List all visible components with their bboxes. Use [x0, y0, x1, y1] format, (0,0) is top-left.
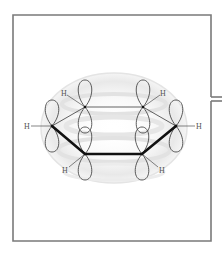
- hydrogen-label-c5: H: [159, 166, 165, 175]
- carbon-c5: [141, 153, 144, 156]
- carbon-c2: [84, 106, 87, 109]
- carbon-c6: [84, 153, 87, 156]
- hydrogen-label-c4: H: [196, 122, 202, 131]
- hydrogen-label-c3: H: [160, 89, 166, 98]
- hydrogen-label-c2: H: [61, 89, 67, 98]
- hydrogen-label-c1: H: [24, 122, 30, 131]
- carbon-c4: [175, 125, 178, 128]
- benzene-orbital-diagram: H H H H H H: [0, 0, 222, 254]
- carbon-c1: [51, 125, 54, 128]
- hydrogen-label-c6: H: [62, 166, 68, 175]
- carbon-c3: [142, 106, 145, 109]
